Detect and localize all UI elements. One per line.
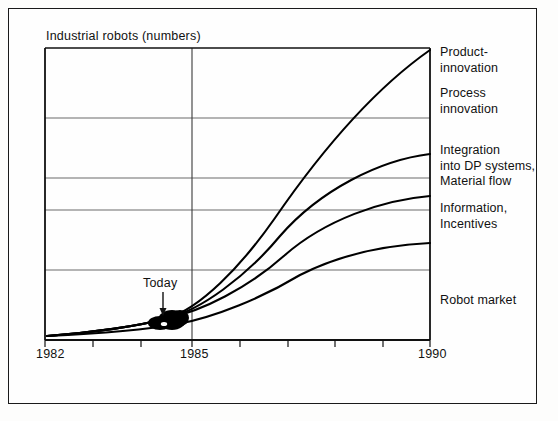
x-axis-label-1982: 1982 [36, 347, 65, 361]
x-axis-label-1990: 1990 [418, 347, 447, 361]
series-curve-integration [47, 196, 430, 336]
today-marker-blob [148, 310, 189, 330]
x-axis-ticks [45, 340, 430, 347]
today-annotation-label: Today [143, 276, 177, 290]
series-label-product-innovation: Product- innovation [440, 45, 498, 76]
series-curves [47, 50, 430, 336]
series-label-integration: Integration into DP systems, Material fl… [440, 143, 535, 190]
chart-page: Industrial robots (numbers) [0, 0, 558, 421]
series-curve-product-innovation [47, 50, 430, 336]
horizontal-gridlines [45, 118, 430, 270]
series-curve-process-innovation [47, 154, 430, 336]
series-label-process-innovation: Process innovation [440, 86, 498, 117]
blob-tail [148, 316, 172, 330]
plot-frame [45, 48, 430, 340]
blob-head [171, 310, 189, 326]
blob-highlight [161, 322, 167, 326]
series-label-robot-market: Robot market [440, 293, 516, 309]
series-label-information: Information, Incentives [440, 201, 507, 232]
x-axis-label-1985: 1985 [180, 347, 209, 361]
